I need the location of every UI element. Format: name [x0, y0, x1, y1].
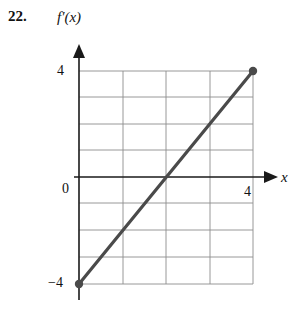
x-axis-arrowhead-icon	[264, 171, 278, 183]
y-axis	[73, 44, 85, 300]
endpoint-dot-right	[249, 67, 257, 75]
y-axis-tick-label-4: 4	[57, 63, 64, 79]
figure-panel: 22. f′(x)	[0, 0, 298, 316]
x-axis-label: x	[281, 169, 288, 186]
coordinate-plot	[0, 0, 298, 316]
origin-tick-label: 0	[62, 181, 69, 197]
y-axis-tick-label-neg4: −4	[48, 275, 63, 291]
y-axis-arrowhead-icon	[73, 44, 85, 58]
x-axis-tick-label-4: 4	[244, 184, 251, 200]
x-axis	[74, 171, 278, 183]
endpoint-dot-left	[75, 280, 83, 288]
